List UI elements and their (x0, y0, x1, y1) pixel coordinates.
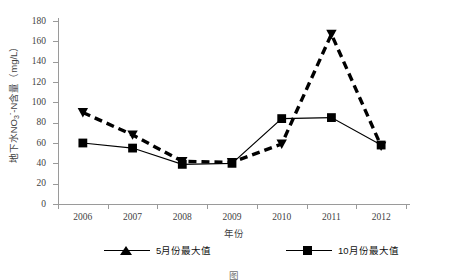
x-tick-label: 2011 (308, 212, 354, 222)
x-tick (356, 204, 357, 209)
chart-legend: 5月份最大值 10月份最大值 (0, 243, 468, 261)
y-tick-label: 40 (12, 159, 46, 168)
y-axis-title-sup: - (6, 113, 13, 115)
series-line-october (83, 118, 381, 165)
x-tick-label: 2012 (358, 212, 404, 222)
x-tick (257, 204, 258, 209)
data-point-october (78, 139, 87, 148)
y-tick-label: 60 (12, 139, 46, 148)
x-tick-label: 2007 (110, 212, 156, 222)
plot-area (58, 21, 406, 204)
data-point-october (128, 144, 137, 153)
y-tick-label: 120 (12, 78, 46, 87)
y-tick-label: 160 (12, 37, 46, 46)
x-tick-label: 2009 (209, 212, 255, 222)
y-tick-label: 180 (12, 17, 46, 26)
x-tick-label: 2006 (60, 212, 106, 222)
x-tick (58, 204, 59, 209)
x-tick-label: 2010 (259, 212, 305, 222)
triangle-marker-icon (104, 245, 150, 256)
legend-item-october[interactable]: 10月份最大值 (286, 243, 399, 257)
square-marker-icon (286, 245, 332, 256)
legend-label-may: 5月份最大值 (156, 243, 211, 257)
y-tick-label: 100 (12, 98, 46, 107)
x-tick (157, 204, 158, 209)
x-axis-title: 年份 (0, 226, 468, 240)
y-tick-label: 0 (12, 200, 46, 209)
legend-label-october: 10月份最大值 (338, 243, 399, 257)
series-line-may (83, 34, 381, 162)
y-tick-label: 20 (12, 179, 46, 188)
data-point-may (326, 30, 336, 39)
data-point-october (277, 114, 286, 123)
x-tick (108, 204, 109, 209)
chart-figure: 地下水NO3--N含量（mg/L） 0204060801001201401601… (0, 0, 468, 280)
x-tick (207, 204, 208, 209)
x-tick (406, 204, 407, 209)
figure-caption: 图 (0, 268, 468, 280)
y-tick-label: 80 (12, 118, 46, 127)
x-tick (307, 204, 308, 209)
data-point-october (327, 113, 336, 122)
x-tick-label: 2008 (159, 212, 205, 222)
series-canvas (58, 21, 406, 204)
legend-item-may[interactable]: 5月份最大值 (104, 243, 211, 257)
y-tick-label: 140 (12, 57, 46, 66)
